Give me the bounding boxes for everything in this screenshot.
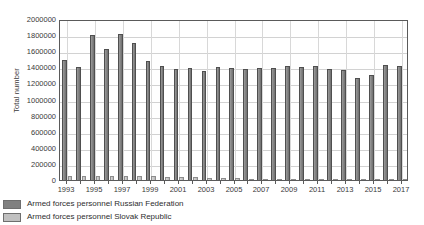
x-tick-mark xyxy=(261,181,262,184)
bar-slovak-republic xyxy=(403,179,408,180)
y-axis-tick-labels: 2000000180000016000001400000120000010000… xyxy=(8,20,56,181)
bar-slovak-republic xyxy=(137,176,142,180)
bar-chart-figure: Total number 200000018000001600000140000… xyxy=(0,0,424,225)
bar-russian-federation xyxy=(313,66,318,180)
x-tick-mark xyxy=(303,181,304,184)
x-tick-mark xyxy=(345,181,346,184)
bars-layer xyxy=(60,21,407,180)
bar-russian-federation xyxy=(76,67,81,180)
year-bar-group xyxy=(367,21,381,180)
x-tick-mark xyxy=(331,181,332,184)
year-bar-group xyxy=(214,21,228,180)
y-tick-label: 1400000 xyxy=(8,64,56,72)
year-bar-group xyxy=(60,21,74,180)
bar-slovak-republic xyxy=(221,178,226,180)
plot-area xyxy=(59,20,408,181)
x-tick-mark xyxy=(289,181,290,184)
bar-slovak-republic xyxy=(68,176,73,180)
x-tick-mark xyxy=(80,181,81,184)
bar-slovak-republic xyxy=(389,179,394,180)
bar-russian-federation xyxy=(327,69,332,180)
bar-slovak-republic xyxy=(179,177,184,180)
bar-russian-federation xyxy=(104,49,109,180)
bar-slovak-republic xyxy=(96,176,101,180)
bar-slovak-republic xyxy=(151,176,156,180)
y-tick-label: 1000000 xyxy=(8,97,56,105)
legend-label: Armed forces personnel Slovak Republic xyxy=(27,212,172,222)
x-tick-mark xyxy=(373,181,374,184)
year-bar-group xyxy=(269,21,283,180)
x-tick-mark xyxy=(66,181,67,184)
bar-slovak-republic xyxy=(193,177,198,180)
bar-slovak-republic xyxy=(361,179,366,180)
year-bar-group xyxy=(88,21,102,180)
x-tick-mark xyxy=(234,181,235,184)
bar-russian-federation xyxy=(341,70,346,180)
bar-russian-federation xyxy=(90,35,95,180)
x-tick-mark xyxy=(401,181,402,184)
year-bar-group xyxy=(311,21,325,180)
x-axis-tick-labels: 1993199519971999200120032005200720092011… xyxy=(59,185,408,197)
year-bar-group xyxy=(144,21,158,180)
year-bar-group xyxy=(241,21,255,180)
x-tick-label: 2017 xyxy=(381,185,421,195)
y-tick-label: 1200000 xyxy=(8,80,56,88)
x-tick-mark xyxy=(122,181,123,184)
bar-slovak-republic xyxy=(124,176,129,180)
bar-russian-federation xyxy=(257,68,262,180)
y-tick-label: 600000 xyxy=(8,129,56,137)
y-tick-label: 0 xyxy=(8,177,56,185)
x-tick-mark xyxy=(359,181,360,184)
year-bar-group xyxy=(297,21,311,180)
year-bar-group xyxy=(325,21,339,180)
x-tick-mark xyxy=(94,181,95,184)
bar-russian-federation xyxy=(160,66,165,180)
bar-russian-federation xyxy=(229,68,234,180)
bar-russian-federation xyxy=(243,69,248,180)
x-tick-mark xyxy=(136,181,137,184)
legend-item: Armed forces personnel Slovak Republic xyxy=(3,211,421,223)
bar-slovak-republic xyxy=(249,179,254,180)
bar-slovak-republic xyxy=(305,179,310,180)
bar-russian-federation xyxy=(188,68,193,180)
bar-russian-federation xyxy=(174,69,179,180)
bar-slovak-republic xyxy=(291,179,296,180)
bar-russian-federation xyxy=(118,34,123,181)
x-tick-mark xyxy=(206,181,207,184)
y-tick-label: 2000000 xyxy=(8,16,56,24)
legend-label: Armed forces personnel Russian Federatio… xyxy=(27,199,184,209)
bar-slovak-republic xyxy=(110,176,115,180)
year-bar-group xyxy=(74,21,88,180)
y-tick-label: 1600000 xyxy=(8,48,56,56)
x-tick-mark xyxy=(275,181,276,184)
bar-russian-federation xyxy=(132,43,137,180)
bar-russian-federation xyxy=(202,71,207,180)
x-tick-mark xyxy=(108,181,109,184)
year-bar-group xyxy=(130,21,144,180)
year-bar-group xyxy=(158,21,172,180)
x-tick-mark xyxy=(164,181,165,184)
bar-russian-federation xyxy=(216,67,221,181)
bar-slovak-republic xyxy=(82,176,87,180)
bar-slovak-republic xyxy=(207,178,212,180)
x-tick-mark xyxy=(220,181,221,184)
legend-swatch xyxy=(3,200,21,209)
year-bar-group xyxy=(381,21,395,180)
bar-russian-federation xyxy=(299,67,304,181)
x-tick-mark xyxy=(178,181,179,184)
year-bar-group xyxy=(283,21,297,180)
bar-slovak-republic xyxy=(375,179,380,180)
bar-russian-federation xyxy=(383,65,388,180)
bar-russian-federation xyxy=(397,66,402,180)
bar-slovak-republic xyxy=(333,179,338,180)
x-tick-mark xyxy=(150,181,151,184)
bar-slovak-republic xyxy=(277,179,282,180)
x-tick-mark xyxy=(247,181,248,184)
x-tick-mark xyxy=(192,181,193,184)
legend-swatch xyxy=(3,213,21,222)
bar-russian-federation xyxy=(369,75,374,180)
y-tick-label: 400000 xyxy=(8,145,56,153)
bar-russian-federation xyxy=(271,68,276,180)
y-tick-label: 1800000 xyxy=(8,32,56,40)
bar-russian-federation xyxy=(146,61,151,180)
